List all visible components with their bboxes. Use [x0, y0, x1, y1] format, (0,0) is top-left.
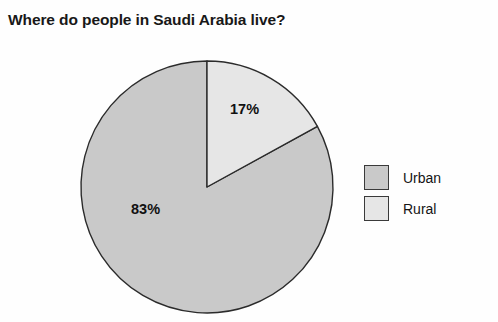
pie-label-urban: 83% — [131, 201, 160, 217]
chart-legend: Urban Rural — [364, 162, 492, 224]
legend-label-rural: Rural — [403, 201, 436, 217]
pie-chart-svg — [0, 0, 360, 322]
legend-swatch-rural — [364, 196, 389, 221]
chart-container: Where do people in Saudi Arabia live? 17… — [0, 0, 498, 322]
legend-swatch-urban — [364, 165, 389, 190]
pie-label-rural: 17% — [230, 101, 259, 117]
legend-label-urban: Urban — [403, 170, 441, 186]
pie-chart: 17% 83% — [0, 0, 360, 322]
legend-item-rural[interactable]: Rural — [364, 193, 492, 224]
legend-item-urban[interactable]: Urban — [364, 162, 492, 193]
